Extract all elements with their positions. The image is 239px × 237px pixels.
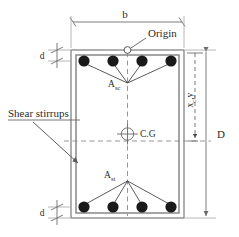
- rebar-top-2: [107, 55, 118, 66]
- figure-canvas: b D d d Origin C.G Asc Ast Shear stirrup…: [0, 0, 239, 237]
- centroid-distance-label: xc,y: [185, 92, 197, 107]
- rebar-bottom-2: [107, 201, 118, 212]
- rebar-bottom-4: [165, 201, 176, 212]
- width-label: b: [122, 8, 128, 20]
- xcy-tail: ,y: [185, 92, 195, 99]
- rebar-top-1: [78, 55, 89, 66]
- cover-bottom-label: d: [40, 208, 45, 218]
- rebar-top-4: [165, 55, 176, 66]
- origin-label: Origin: [148, 27, 177, 39]
- origin-leader-line: [131, 38, 146, 48]
- rebar-bottom-1: [78, 201, 89, 212]
- centroid-label: C.G: [140, 129, 156, 139]
- asc-subscript: sc: [115, 84, 121, 91]
- beam-cross-section-diagram: b D d d Origin C.G Asc Ast Shear stirrup…: [0, 0, 239, 237]
- cover-top-label: d: [40, 51, 45, 61]
- rebar-bottom-3: [136, 201, 147, 212]
- origin-marker-icon: [124, 47, 131, 54]
- depth-label: D: [217, 128, 225, 140]
- shear-stirrups-label: Shear stirrups: [8, 107, 69, 119]
- steel-tension-label: Ast: [104, 170, 115, 182]
- ast-subscript: st: [111, 175, 116, 182]
- rebar-top-3: [136, 55, 147, 66]
- steel-compression-label: Asc: [108, 79, 120, 91]
